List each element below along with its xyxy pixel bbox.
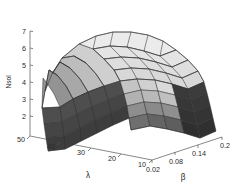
z-tick-label-4: 4 [22, 78, 26, 87]
z-tick-label-7: 7 [22, 27, 26, 36]
z-tick-label-5: 5 [22, 61, 26, 70]
lambda-tick-label-40: 40 [47, 142, 55, 151]
beta-axis-title: β [181, 173, 186, 182]
figure-canvas: 7 6 5 4 3 2 Nsol [0, 0, 237, 185]
lambda-tick-label-20: 20 [108, 154, 116, 163]
z-axis-ticks: 7 6 5 4 3 2 [22, 27, 33, 121]
z-axis-title: Nsol [5, 75, 12, 89]
lambda-tick-label-30: 30 [77, 148, 85, 157]
z-tick-label-2: 2 [22, 112, 26, 121]
beta-tick-label-002: 0.02 [146, 165, 160, 174]
beta-tick-label-02: 0.2 [220, 141, 230, 150]
beta-tick-label-014: 0.14 [192, 149, 206, 158]
z-tick-label-6: 6 [22, 44, 26, 53]
lambda-tick-label-10: 10 [138, 160, 146, 169]
lambda-axis-ticks: 50 40 30 20 10 [17, 135, 152, 169]
beta-axis-line [152, 137, 222, 160]
z-tick-label-3: 3 [22, 95, 26, 104]
lambda-tick-label-50: 50 [17, 135, 25, 144]
surface-mesh [42, 32, 216, 151]
surface-plot: 7 6 5 4 3 2 Nsol [0, 0, 237, 185]
beta-axis-ticks: 0.02 0.08 0.14 0.2 [146, 137, 230, 174]
lambda-axis-title: λ [86, 171, 91, 180]
beta-tick-label-008: 0.08 [169, 157, 183, 166]
